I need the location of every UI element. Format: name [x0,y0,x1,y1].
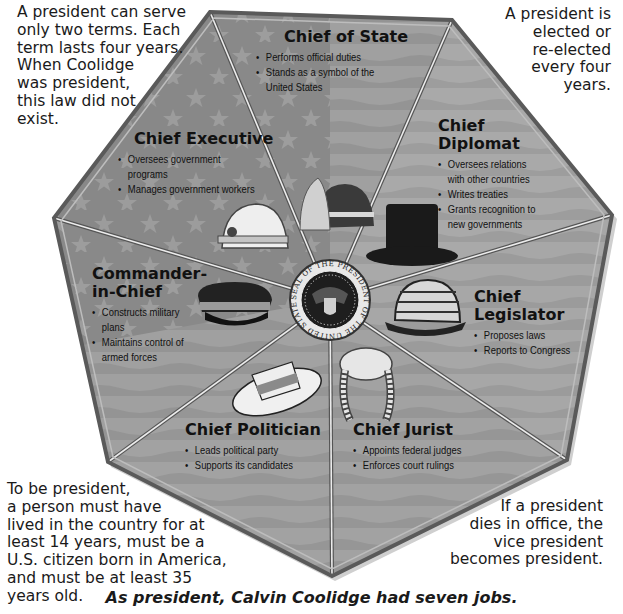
job-chief-diplomat: Chief Diplomat Oversees relations with o… [438,117,557,232]
duty-list: Appoints federal judges Enforces court r… [353,443,461,473]
note-succession: If a president dies in office, the vice … [450,498,603,569]
duty-list: Proposes laws Reports to Congress [474,328,570,358]
job-title: Chief Legislator [474,288,591,324]
duty-list: Performs official duties Stands as a sym… [256,50,381,95]
job-chief-jurist: Chief Jurist Appoints federal judges Enf… [353,421,485,473]
note-election-frequency: A president is elected or re-elected eve… [505,6,611,95]
job-title: Chief Executive [118,130,285,148]
job-title: Chief Jurist [353,421,485,439]
duty-item: Enforces court rulings [353,458,461,473]
duty-item: Oversees government programs [118,152,255,182]
job-chief-legislator: Chief Legislator Proposes laws Reports t… [474,288,591,358]
duty-item: Writes treaties [438,187,535,202]
duty-item: Maintains control of armed forces [92,335,186,365]
duty-item: Supports its candidates [185,458,297,473]
duty-item: Manages government workers [118,182,255,197]
job-title: Commander- in-Chief [92,265,207,301]
job-commander-in-chief: Commander- in-Chief Constructs military … [92,265,207,365]
duty-list: Constructs military plans Maintains cont… [92,305,186,365]
job-title: Chief Diplomat [438,117,557,153]
duty-item: Leads political party [185,443,297,458]
duty-item: Grants recognition to new governments [438,202,535,232]
note-term-limits: A president can serve only two terms. Ea… [17,4,186,129]
note-eligibility: To be president, a person must have live… [7,481,227,606]
job-chief-executive: Chief Executive Oversees government prog… [118,130,285,197]
duty-item: Performs official duties [256,50,381,65]
duty-item: Stands as a symbol of the United States [256,65,381,95]
duty-item: Oversees relations with other countries [438,157,535,187]
duty-list: Oversees government programs Manages gov… [118,152,255,197]
duty-item: Appoints federal judges [353,443,461,458]
duty-list: Leads political party Supports its candi… [185,443,297,473]
duty-list: Oversees relations with other countries … [438,157,535,232]
duty-item: Reports to Congress [474,343,570,358]
duty-item: Proposes laws [474,328,570,343]
figure-caption: As president, Calvin Coolidge had seven … [0,588,623,607]
job-title: Chief Politician [185,421,321,439]
duty-item: Constructs military plans [92,305,186,335]
job-title: Chief of State [256,28,408,46]
job-chief-of-state: Chief of State Performs official duties … [256,28,408,95]
job-chief-politician: Chief Politician Leads political party S… [185,421,321,473]
